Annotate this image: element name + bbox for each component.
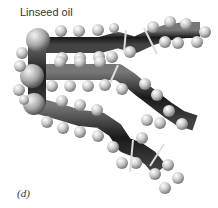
fatty-acid-chain-1: [40, 16, 211, 64]
panel-label: (d): [17, 187, 30, 199]
molecule-model: [0, 0, 218, 208]
glycerol-backbone: [13, 28, 50, 115]
